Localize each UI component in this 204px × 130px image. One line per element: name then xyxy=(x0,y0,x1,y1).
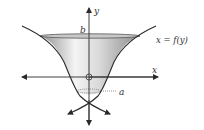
upper-bound-label: b xyxy=(80,25,86,35)
y-axis-label: y xyxy=(93,6,100,16)
x-axis-label: x xyxy=(152,65,157,75)
solid-of-revolution-diagram: y x b a x = f(y) xyxy=(0,0,204,130)
curve-label: x = f(y) xyxy=(156,35,188,45)
revolved-surface xyxy=(40,36,140,95)
lower-bound-label: a xyxy=(119,87,124,97)
top-rim xyxy=(40,34,140,38)
